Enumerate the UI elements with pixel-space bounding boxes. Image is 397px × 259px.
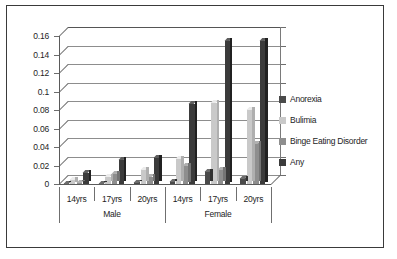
bar [83,173,88,184]
legend-item: Binge Eating Disorder [279,136,383,146]
bar-side [223,167,226,182]
bar-side [153,174,156,181]
legend-swatch-icon [279,117,286,124]
y-axis-label: 0.14 [19,50,49,60]
bar-side [117,171,120,181]
bar-side [230,38,233,181]
bar-side [175,179,178,182]
axis-depth-connector [59,46,69,56]
gridline [68,46,280,47]
y-axis-label: 0.08 [19,105,49,115]
legend-item-label: Any [290,157,304,167]
bar [77,182,82,184]
x-axis-group-label: Female [165,209,271,219]
axis-depth-connector [59,83,69,93]
bar-side [159,155,162,182]
x-axis-category-label: 17yrs [200,194,235,204]
bar-side [210,169,213,182]
y-axis-label: 0.06 [19,124,49,134]
category-separator [236,187,237,201]
gridline [68,101,280,102]
y-axis-label: 0.12 [19,68,49,78]
legend-item-label: Bulimia [290,115,316,125]
bar-side [188,163,191,182]
gridline [68,64,280,65]
x-axis-category-label: 14yrs [59,194,94,204]
axis-depth-connector [59,138,69,148]
axis-depth-connector [59,120,69,130]
x-axis-line [59,184,271,185]
y-axis-label: 0.02 [19,161,49,171]
bar-side [104,181,107,182]
bar-side [124,157,127,181]
y-axis-label: 0.16 [19,31,49,41]
bar [170,181,175,184]
gridline [68,83,280,84]
legend-swatch-icon [279,159,286,166]
bar-face [170,181,175,184]
axis-depth-connector [59,64,69,74]
bar-side [75,177,78,182]
x-axis-category-label: 17yrs [94,194,129,204]
x-axis-group-label: Male [59,209,165,219]
bar [141,169,146,184]
legend-swatch-icon [279,96,286,103]
y-axis-label: 0 [19,179,49,189]
chart-frame: 0.160.140.120.10.080.060.040.02014yrs17y… [6,5,384,248]
bar-side [265,38,268,181]
bar-side [252,107,255,182]
bar-side [69,181,72,182]
axis-depth-connector [59,27,69,37]
category-separator [200,187,201,201]
bar-side [89,170,92,181]
bar [205,171,210,184]
x-axis-category-label: 20yrs [236,194,271,204]
y-axis-line [59,36,60,184]
x-axis-category-label: 14yrs [165,194,200,204]
bar-side [246,176,249,182]
legend-item-label: Binge Eating Disorder [290,136,367,146]
y-axis-label: 0.1 [19,87,49,97]
bar [99,183,104,184]
bar-side [146,167,149,182]
bar-side [111,174,114,181]
x-axis-category-label: 20yrs [130,194,165,204]
bar [225,41,230,184]
category-separator-outer [271,187,272,223]
chart-legend: AnorexiaBulimiaBinge Eating DisorderAny [279,94,383,178]
bar [134,182,139,184]
category-separator [94,187,95,201]
bar-side [140,180,143,182]
axis-depth-connector [59,157,69,167]
legend-item-label: Anorexia [290,94,322,104]
legend-item: Any [279,157,383,167]
legend-item: Anorexia [279,94,383,104]
bar-side [259,141,262,182]
category-separator [130,187,131,201]
legend-swatch-icon [279,138,286,145]
y-axis-label: 0.04 [19,142,49,152]
bar [240,178,245,184]
bar-side [82,180,85,182]
bar-side [181,156,184,182]
bar-side [195,101,198,181]
gridline [68,27,280,28]
bar-side [217,100,220,181]
legend-item: Bulimia [279,115,383,125]
bar [247,109,252,184]
bar [64,183,69,184]
axis-depth-connector [59,101,69,111]
